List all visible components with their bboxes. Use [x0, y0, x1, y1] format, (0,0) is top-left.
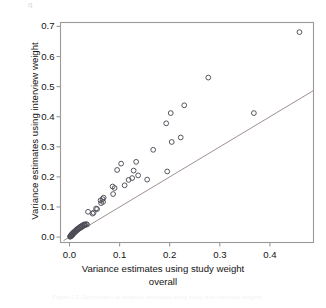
x-axis-tick-label: 0.4 — [257, 249, 283, 260]
data-point — [206, 75, 211, 80]
y-axis-tick-label: 0.1 — [29, 201, 55, 212]
x-axis-label-wrapper: Variance estimates using study weight ov… — [0, 262, 326, 288]
data-point — [251, 111, 256, 116]
data-point — [151, 147, 156, 152]
y-axis-tick-label: 0.0 — [29, 231, 55, 242]
x-axis-tick-label: 0.2 — [157, 249, 183, 260]
data-point — [115, 168, 120, 173]
data-point — [169, 140, 174, 145]
y-axis-label: Variance estimates using interview weigh… — [29, 42, 40, 219]
cropped-text-artifact-bottom: Figure 3.2 Comparison of variance estima… — [52, 294, 282, 300]
data-point — [119, 161, 124, 166]
y-axis-tick-label: 0.6 — [29, 51, 55, 62]
data-point — [297, 30, 302, 35]
y-axis-tick-label: 0.4 — [29, 111, 55, 122]
y-axis-tick-label: 0.7 — [29, 20, 55, 31]
y-axis-tick-label: 0.3 — [29, 141, 55, 152]
data-point — [111, 192, 116, 197]
data-point — [164, 121, 169, 126]
x-axis-tick-label: 0.1 — [107, 249, 133, 260]
x-axis-tick-label: 0.0 — [57, 249, 83, 260]
identity-reference-line — [64, 91, 314, 241]
y-axis-tick-label: 0.2 — [29, 171, 55, 182]
data-point — [131, 168, 136, 173]
data-point — [145, 177, 150, 182]
data-point — [122, 183, 127, 188]
y-axis-tick-label: 0.5 — [29, 81, 55, 92]
x-axis-tick-label: 0.3 — [207, 249, 233, 260]
x-axis-label: Variance estimates using study weight — [0, 262, 326, 275]
data-point-group — [68, 30, 302, 239]
x-axis-label-second-line: overall — [0, 275, 326, 288]
figure-container: g Variance estimates using interview wei… — [0, 0, 326, 308]
data-point — [182, 103, 187, 108]
data-point — [168, 111, 173, 116]
data-point — [134, 159, 139, 164]
data-point — [165, 169, 170, 174]
data-point — [136, 173, 141, 178]
data-point — [178, 135, 183, 140]
